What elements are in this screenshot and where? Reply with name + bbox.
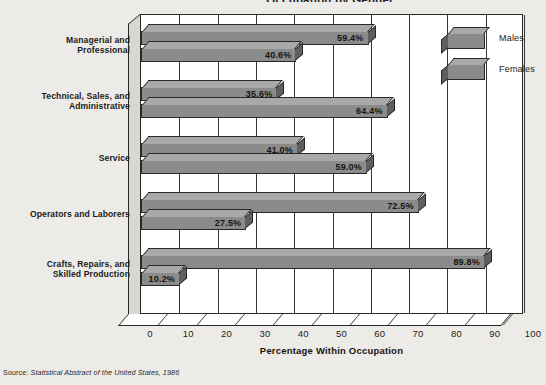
- bar: 40.6%: [141, 48, 296, 62]
- legend: MalesFemales: [447, 27, 535, 89]
- chart-title: Occupation by Gender: [170, 0, 490, 2]
- bar-top-face: [142, 97, 393, 105]
- x-tick-label: 10: [175, 328, 201, 339]
- floor-tick: [388, 314, 398, 325]
- floor-tick: [235, 314, 245, 325]
- floor-tick: [311, 314, 321, 325]
- bar-top-face: [142, 80, 283, 88]
- x-tick-label: 40: [290, 328, 316, 339]
- category-label-line: Administrative: [6, 101, 130, 112]
- bar: 27.5%: [141, 216, 246, 230]
- bar-value-label: 89.8%: [453, 257, 480, 267]
- bar: 59.0%: [141, 160, 367, 174]
- bar-value-label: 64.4%: [356, 106, 383, 116]
- bar-value-label: 72.5%: [387, 201, 414, 211]
- floor-tick: [196, 314, 206, 325]
- legend-swatch-side-face: [441, 65, 448, 85]
- category-label: Managerial andProfessional: [6, 35, 130, 56]
- category-label: Operators and Laborers: [6, 209, 130, 220]
- legend-label: Males: [499, 33, 524, 43]
- bar-top-face: [142, 153, 373, 161]
- category-label: Service: [6, 153, 130, 164]
- bar-top-face: [142, 24, 374, 32]
- x-tick-label: 0: [137, 328, 163, 339]
- floor-tick: [464, 314, 474, 325]
- bar-top-face: [142, 209, 252, 217]
- bar-top-face: [142, 248, 491, 256]
- floor-tick: [426, 314, 436, 325]
- bar: 89.8%: [141, 255, 485, 269]
- bar-value-label: 10.2%: [149, 274, 176, 284]
- plot-depth-floor: [118, 314, 511, 326]
- legend-entry: Females: [447, 58, 535, 82]
- bar-top-face: [142, 192, 424, 200]
- x-tick-label: 90: [482, 328, 508, 339]
- males-swatch: [447, 33, 485, 49]
- bar: 64.4%: [141, 104, 388, 118]
- category-label-line: Managerial and: [6, 35, 130, 46]
- category-label-line: Technical, Sales, and: [6, 91, 130, 102]
- category-axis-labels: Managerial andProfessionalTechnical, Sal…: [0, 0, 130, 330]
- plot-area: 59.4%40.6%35.6%64.4%41.0%59.0%72.5%27.5%…: [140, 14, 523, 314]
- category-label-line: Professional: [6, 45, 130, 56]
- x-tick-label: 50: [329, 328, 355, 339]
- x-tick-label: 30: [252, 328, 278, 339]
- legend-swatch-side-face: [441, 34, 448, 54]
- bar-top-face: [142, 136, 304, 144]
- category-label: Technical, Sales, andAdministrative: [6, 91, 130, 112]
- legend-label: Females: [499, 64, 535, 74]
- source-prefix: Source:: [3, 368, 28, 377]
- legend-swatch-top-face: [448, 27, 490, 34]
- x-tick-label: 70: [405, 328, 431, 339]
- bar-value-label: 27.5%: [215, 218, 242, 228]
- source-note: Source: Statistical Abstract of the Unit…: [3, 368, 179, 377]
- x-axis-title: Percentage Within Occupation: [140, 345, 523, 356]
- category-label-line: Skilled Production: [6, 269, 130, 280]
- category-label-line: Service: [6, 153, 130, 164]
- bar-value-label: 59.0%: [335, 162, 362, 172]
- category-label-line: Operators and Laborers: [6, 209, 130, 220]
- floor-tick: [350, 314, 360, 325]
- floor-tick: [273, 314, 283, 325]
- x-tick-label: 60: [367, 328, 393, 339]
- bar-value-label: 40.6%: [265, 50, 292, 60]
- category-label: Crafts, Repairs, andSkilled Production: [6, 259, 130, 280]
- category-label-line: Crafts, Repairs, and: [6, 259, 130, 270]
- legend-swatch-top-face: [448, 58, 490, 65]
- x-tick-label: 80: [443, 328, 469, 339]
- floor-tick: [503, 314, 513, 325]
- bar-value-label: 59.4%: [337, 33, 364, 43]
- source-body: Statistical Abstract of the United State…: [31, 368, 180, 377]
- floor-tick: [158, 314, 168, 325]
- legend-entry: Males: [447, 27, 535, 51]
- bar: 10.2%: [141, 272, 180, 286]
- females-swatch: [447, 64, 485, 80]
- x-tick-label: 100: [520, 328, 546, 339]
- bar-top-face: [142, 41, 302, 49]
- x-tick-label: 20: [214, 328, 240, 339]
